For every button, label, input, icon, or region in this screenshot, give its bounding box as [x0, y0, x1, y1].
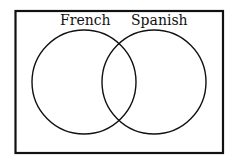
spanish-label: Spanish: [131, 12, 188, 28]
venn-diagram: French Spanish: [0, 0, 236, 164]
french-circle: [32, 30, 136, 134]
universal-set-rectangle: [16, 11, 224, 153]
spanish-circle: [102, 30, 206, 134]
french-label: French: [60, 12, 111, 28]
